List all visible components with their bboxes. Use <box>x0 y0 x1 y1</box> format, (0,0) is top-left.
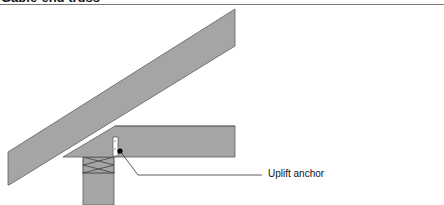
truss-diagram <box>0 0 444 205</box>
top-plate <box>83 157 114 173</box>
wall-stud <box>83 172 114 205</box>
callout-label-uplift-anchor: Uplift anchor <box>268 168 324 179</box>
rafter <box>8 9 235 185</box>
